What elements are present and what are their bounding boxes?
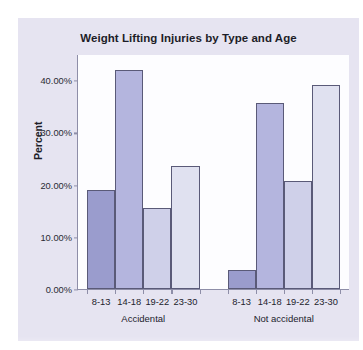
x-axis-category-label: 23-30 [174, 297, 198, 307]
bar-accidental-8-13 [87, 190, 115, 289]
x-axis-category-label: 14-18 [117, 297, 141, 307]
x-axis-category-label: 23-30 [314, 297, 338, 307]
x-axis-tick-mark [228, 289, 229, 294]
y-axis-tick-label: 30.00% [40, 128, 78, 138]
y-axis-tick-mark [74, 133, 79, 134]
y-axis-tick-mark [74, 289, 79, 290]
y-axis-label: Percent [32, 121, 44, 160]
scanned-page: Weight Lifting Injuries by Type and Age … [0, 0, 363, 350]
bar-not-accidental-8-13 [228, 270, 256, 289]
x-axis-tick-mark [87, 289, 88, 294]
x-axis-tick-mark [115, 289, 116, 294]
x-axis-tick-mark [340, 289, 341, 294]
y-axis-tick-mark [74, 185, 79, 186]
x-axis-group-label: Accidental [121, 313, 165, 324]
x-axis-tick-mark [312, 289, 313, 294]
x-axis-category-label: 8-13 [232, 297, 251, 307]
chart-card: Weight Lifting Injuries by Type and Age … [18, 18, 359, 341]
x-axis-tick-mark [284, 289, 285, 294]
chart-title: Weight Lifting Injuries by Type and Age [18, 32, 359, 44]
x-axis-category-label: 19-22 [286, 297, 310, 307]
x-axis-category-label: 14-18 [258, 297, 282, 307]
x-axis-tick-mark [171, 289, 172, 294]
x-axis-tick-mark [200, 289, 201, 294]
x-axis-category-label: 8-13 [92, 297, 111, 307]
x-axis-category-label: 19-22 [145, 297, 169, 307]
x-axis-tick-mark [256, 289, 257, 294]
bar-not-accidental-19-22 [284, 181, 312, 289]
y-axis-tick-mark [74, 237, 79, 238]
x-axis-tick-mark [143, 289, 144, 294]
bar-accidental-23-30 [171, 166, 199, 289]
x-axis-group-label: Not accidental [254, 313, 314, 324]
y-axis-tick-mark [74, 81, 79, 82]
plot-area: 0.00%10.00%20.00%30.00%40.00% 8-1314-181… [77, 55, 349, 290]
y-axis-tick-label: 40.00% [40, 76, 78, 86]
bar-not-accidental-14-18 [256, 103, 284, 289]
y-axis-tick-label: 10.00% [40, 233, 78, 243]
bar-accidental-19-22 [143, 208, 171, 289]
bar-accidental-14-18 [115, 70, 143, 289]
bar-not-accidental-23-30 [312, 85, 340, 289]
y-axis-tick-label: 20.00% [40, 181, 78, 191]
